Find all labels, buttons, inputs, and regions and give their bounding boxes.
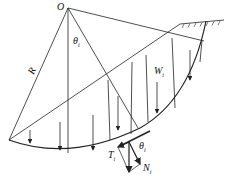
slope-stability-diagram: O R θi Wi Ti θi Ni xyxy=(0,0,233,176)
label-theta: θi xyxy=(73,36,80,48)
label-center-O: O xyxy=(57,2,64,12)
diagram-svg xyxy=(0,0,233,176)
slice-line xyxy=(108,80,110,140)
radius-slice xyxy=(68,8,138,128)
slice-line xyxy=(172,38,175,108)
label-theta-2: θi xyxy=(139,141,146,153)
force-T xyxy=(118,142,129,147)
slice-line xyxy=(131,62,132,134)
label-weight-W: Wi xyxy=(154,66,164,78)
slip-arc xyxy=(9,21,206,149)
slice-line xyxy=(146,55,148,122)
label-shear-T: Ti xyxy=(108,150,115,162)
label-normal-N: Ni xyxy=(143,163,151,175)
